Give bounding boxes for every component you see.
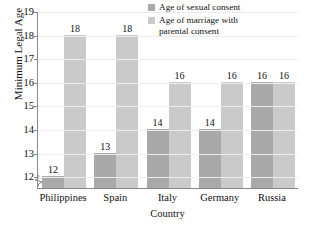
y-axis-tick-mark: [34, 59, 38, 60]
legend-item-series-1: Age of sexual consent: [148, 2, 260, 12]
bar-value-label: 16: [267, 71, 301, 81]
bar-value-label: 18: [58, 24, 92, 34]
gridline: [38, 154, 298, 155]
x-axis-tick-label: Russia: [227, 192, 309, 203]
y-axis-tick-label: 14: [4, 125, 34, 136]
y-axis-tick-label: 13: [4, 149, 34, 160]
legend-swatch-icon-series-2: [148, 17, 155, 24]
y-axis-tick-label: 12: [4, 172, 34, 183]
y-axis-tick-label: 18: [4, 31, 34, 42]
y-axis-tick-mark: [34, 177, 38, 178]
bar: [273, 82, 295, 188]
bar: [169, 82, 191, 188]
bar: [221, 82, 243, 188]
legend-label-line-2: parental consent: [159, 26, 238, 36]
legend-label-series-2: Age of marriage with parental consent: [159, 15, 238, 36]
y-axis-tick-label: 19: [4, 7, 34, 18]
bar-value-label: 16: [215, 71, 249, 81]
bar: [199, 129, 221, 188]
bar-value-label: 18: [110, 24, 144, 34]
gridline: [38, 130, 298, 131]
gridline: [38, 59, 298, 60]
gridline: [38, 106, 298, 107]
bar: [147, 129, 169, 188]
y-axis-tick-mark: [34, 106, 38, 107]
gridline: [38, 83, 298, 84]
legend-label-line-1: Age of marriage with: [159, 15, 238, 25]
legend: Age of sexual consent Age of marriage wi…: [148, 2, 260, 39]
gridline: [38, 177, 298, 178]
bar: [251, 82, 273, 188]
bar: [94, 153, 116, 188]
y-axis-tick-mark: [34, 12, 38, 13]
legend-swatch-icon-series-1: [148, 4, 155, 11]
y-axis-tick-label: 16: [4, 78, 34, 89]
bar: [64, 35, 86, 188]
legend-item-series-2: Age of marriage with parental consent: [148, 15, 260, 36]
y-axis-tick-mark: [34, 83, 38, 84]
y-axis-tick-mark: [34, 130, 38, 131]
y-axis-tick-label: 17: [4, 54, 34, 65]
x-axis-title: Country: [37, 208, 298, 219]
y-axis-tick-mark: [34, 36, 38, 37]
legend-label-line-1: Age of sexual consent: [159, 2, 240, 12]
bar-chart: Minimum Legal Age 1213141516171819 12181…: [0, 0, 309, 231]
y-axis-tick-mark: [34, 154, 38, 155]
y-axis-tick-label: 15: [4, 101, 34, 112]
bar-value-label: 16: [163, 71, 197, 81]
legend-label-series-1: Age of sexual consent: [159, 2, 240, 12]
bar: [116, 35, 138, 188]
